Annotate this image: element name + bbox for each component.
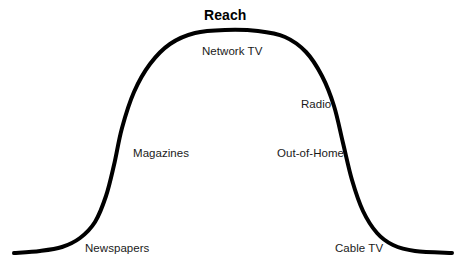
label-cable-tv: Cable TV (335, 243, 383, 255)
reach-curve-plot (0, 0, 462, 279)
label-out-of-home: Out-of-Home (277, 148, 344, 160)
chart-title: Reach (204, 8, 247, 22)
label-magazines: Magazines (133, 148, 189, 160)
label-network-tv: Network TV (202, 46, 262, 58)
label-radio: Radio (301, 99, 331, 111)
label-newspapers: Newspapers (85, 243, 149, 255)
reach-curve-chart: Reach Network TV Radio Magazines Out-of-… (0, 0, 462, 279)
reach-curve-line (14, 30, 452, 253)
